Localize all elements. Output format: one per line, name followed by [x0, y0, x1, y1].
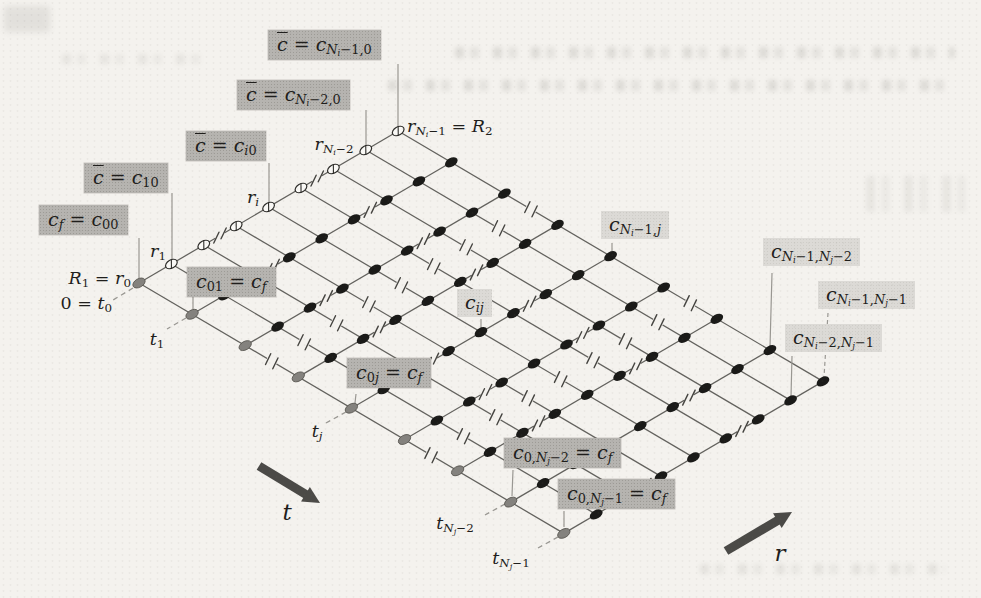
- label-cf-eq-c00: cf = c00: [39, 205, 128, 235]
- tick-tj: tj: [312, 422, 323, 442]
- tick-rNi-1-R2: rNi−1 = R2: [407, 117, 492, 137]
- label-c0j-eq-cf: c0j = cf: [347, 358, 431, 388]
- tick-r1: r1: [150, 242, 166, 262]
- tick-rNi-2: rNi−2: [315, 135, 354, 155]
- tick-tNj-1: tNj−1: [492, 549, 530, 569]
- tick-0-t0: 0 = t0: [60, 294, 112, 314]
- label-cNi-2-Nj-1: cNi−2,Nj−1: [785, 324, 882, 352]
- axis-label-t: t: [282, 500, 291, 526]
- axis-label-r: r: [775, 541, 786, 567]
- label-c0Nj-1-eq-cf: c0,Nj−1 = cf: [558, 479, 675, 509]
- labels-layer: c = cNi−1,0c = cNi−2,0c = ci0c = c10cf =…: [0, 0, 981, 598]
- tick-R1-r0: R1 = r0: [68, 269, 131, 289]
- label-cbar-eq-ci0: c = ci0: [186, 131, 266, 161]
- label-cNi-1-Nj-2: cNi−1,Nj−2: [763, 238, 860, 266]
- tick-ri: ri: [247, 188, 259, 208]
- label-c01-eq-cf: c01 = cf: [187, 267, 276, 297]
- tick-tNj-2: tNj−2: [436, 514, 474, 534]
- label-cbar-eq-cNi-2-0: c = cNi−2,0: [237, 80, 350, 110]
- label-cbar-eq-cNi-1-0: c = cNi−1,0: [268, 30, 381, 60]
- label-cbar-eq-c10: c = c10: [84, 163, 168, 193]
- diagram-canvas: c = cNi−1,0c = cNi−2,0c = ci0c = c10cf =…: [0, 0, 981, 598]
- label-cNi-1-j: cNi−1,j: [601, 211, 669, 239]
- label-cij: cij: [457, 289, 492, 317]
- tick-t1: t1: [150, 330, 165, 350]
- label-c0Nj-2-eq-cf: c0,Nj−2 = cf: [504, 438, 621, 468]
- label-cNi-1-Nj-1: cNi−1,Nj−1: [818, 281, 915, 309]
